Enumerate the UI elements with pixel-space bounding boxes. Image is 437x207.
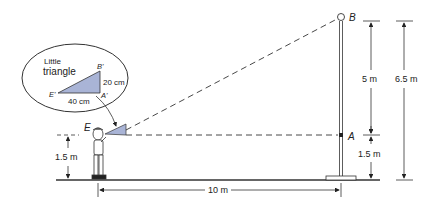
line-of-sight-eb (126, 19, 337, 130)
label-e-prime: E' (49, 90, 56, 99)
label-b-prime: B' (97, 62, 104, 71)
point-a-marker (339, 133, 343, 137)
pole-total-dimension (396, 21, 413, 180)
label-pole-lower: 1.5 m (358, 149, 381, 159)
label-pole-total: 6.5 m (395, 74, 418, 84)
label-b: B (349, 12, 356, 23)
observer-figure (92, 128, 106, 179)
point-b-marker (338, 14, 345, 21)
label-eye-height: 1.5 m (55, 152, 78, 162)
label-a-prime: A' (100, 91, 108, 100)
little-triangle-inset: Little triangle B' A' E' 20 cm 40 cm (22, 44, 128, 126)
pole-base (326, 176, 356, 180)
label-e: E (84, 122, 91, 133)
inset-title-line2: triangle (43, 66, 76, 77)
label-a: A (347, 131, 355, 142)
label-distance: 10 m (208, 185, 228, 195)
label-40cm: 40 cm (68, 97, 90, 106)
flagpole (326, 14, 356, 181)
inset-title-line1: Little (44, 57, 61, 66)
label-pole-upper: 5 m (362, 74, 377, 84)
similar-triangles-diagram: Little triangle B' A' E' 20 cm 40 cm B A… (0, 0, 437, 207)
label-20cm: 20 cm (103, 78, 125, 87)
pointer-arrow (96, 96, 116, 126)
